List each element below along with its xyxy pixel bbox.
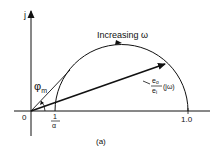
semicircle-locus — [55, 45, 188, 112]
one-label: 1.0 — [181, 115, 193, 124]
phi-m-label: φm — [34, 80, 47, 94]
imaginary-axis-label: j — [23, 10, 26, 20]
increasing-omega-label: Increasing ω — [97, 30, 148, 40]
vector-label-argument: (jω) — [163, 83, 175, 91]
inverse-alpha-numerator: 1 — [53, 113, 57, 120]
vector-label-numerator: eo — [152, 77, 159, 85]
origin-label: 0 — [22, 113, 27, 122]
polar-plot-diagram: j Increasing ω φm 0 1 α 1.0 eo ei (jω) (… — [0, 0, 217, 152]
transfer-function-vector — [31, 64, 165, 111]
inverse-alpha-denominator: α — [52, 122, 56, 129]
label-leader — [143, 81, 150, 84]
vector-label-denominator: ei — [152, 87, 157, 95]
figure-caption: (a) — [96, 137, 106, 146]
